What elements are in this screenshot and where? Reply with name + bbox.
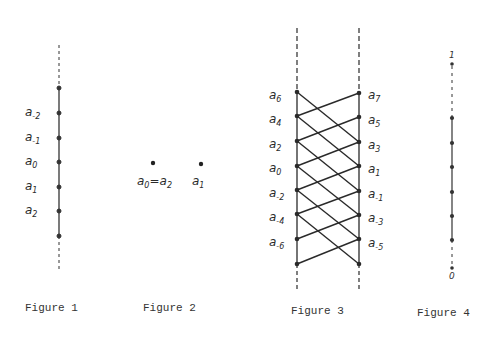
figure-1-label-a-1: a1 xyxy=(25,180,37,195)
figures-canvas xyxy=(0,0,499,338)
figure-4-bottom-point xyxy=(450,266,454,270)
figure-3-label-a2: a2 xyxy=(269,138,281,153)
figure-1-caption: Figure 1 xyxy=(25,303,78,314)
figure-3-label-a5: a5 xyxy=(368,114,380,129)
figure-1-label-a-minus-1: a-1 xyxy=(25,131,40,146)
figure-2-label-a1: a1 xyxy=(192,175,204,190)
figure-4-top-point xyxy=(450,62,454,66)
figure-3-label-a6: a6 xyxy=(269,89,281,104)
figure-4-label-top: 1 xyxy=(449,51,455,60)
figure-2-label-a0-equals-a2: a0=a2 xyxy=(137,175,172,190)
figure-2-point-a1 xyxy=(199,162,203,166)
figure-1-label-a-0: a0 xyxy=(25,155,37,170)
figure-1-diagram xyxy=(57,45,61,272)
figure-3-label-a-minus-5: a-5 xyxy=(368,237,383,252)
figure-2-caption: Figure 2 xyxy=(143,303,196,314)
figure-3-label-a-minus-3: a-3 xyxy=(368,212,383,227)
figure-3-label-a-minus-4: a-4 xyxy=(269,211,284,226)
figure-3-label-a1: a1 xyxy=(368,163,380,178)
figure-3-label-a-minus-6: a-6 xyxy=(269,236,284,251)
figure-3-label-a-minus-2: a-2 xyxy=(269,187,284,202)
figure-3-label-a-minus-1: a-1 xyxy=(368,188,383,203)
figure-1-node xyxy=(57,136,61,140)
figure-1-label-a-2: a2 xyxy=(25,204,37,219)
figure-4-caption: Figure 4 xyxy=(417,308,470,319)
figure-1-node xyxy=(57,209,61,213)
figure-1-label-a-minus-2: a-2 xyxy=(25,106,40,121)
figure-1-node xyxy=(57,234,61,238)
figure-3-label-a7: a7 xyxy=(368,89,380,104)
figure-3-caption: Figure 3 xyxy=(291,306,344,317)
figure-3-label-a3: a3 xyxy=(368,139,380,154)
figure-1-node xyxy=(57,111,61,115)
figure-3-label-a4: a4 xyxy=(269,113,281,128)
figure-2-point-a0 xyxy=(151,161,155,165)
figure-4-diagram xyxy=(450,62,454,270)
figure-4-label-bottom: 0 xyxy=(449,272,455,281)
figure-1-node xyxy=(57,160,61,164)
figure-3-label-a0: a0 xyxy=(269,162,281,177)
figure-3-diagram xyxy=(295,28,362,290)
figure-1-node xyxy=(57,185,61,189)
figure-2-diagram xyxy=(151,161,203,166)
figure-1-node xyxy=(57,86,61,90)
